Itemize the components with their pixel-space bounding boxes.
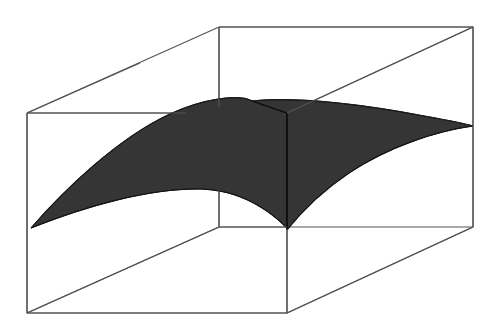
surface-plot-figure: Shaded three-dimensional hyperbolic para… [0,0,496,333]
surface-plot-canvas [0,0,496,333]
